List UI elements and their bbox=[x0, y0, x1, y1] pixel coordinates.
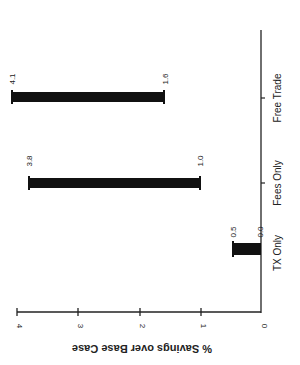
label-free-trade-low: 1.6 bbox=[161, 73, 170, 85]
tick-label-1: 1 bbox=[199, 324, 208, 329]
value-axis-title: % Savings over Base Case bbox=[72, 343, 212, 355]
bar-tx-only bbox=[233, 243, 261, 255]
category-label-free-trade: Free Trade bbox=[272, 73, 283, 122]
bar-fees-only bbox=[29, 178, 200, 188]
tick-label-2: 2 bbox=[138, 324, 147, 329]
range-bars bbox=[12, 90, 261, 257]
label-fees-only-high: 3.8 bbox=[25, 155, 34, 167]
label-tx-only-high: 0.5 bbox=[229, 226, 238, 238]
label-tx-only-low: 0.0 bbox=[256, 226, 265, 238]
savings-range-chart: 4 3 2 1 0 % Savings over Base Case Free … bbox=[0, 0, 300, 365]
category-label-fees-only: Fees Only bbox=[272, 160, 283, 206]
category-labels: Free Trade Fees Only TX Only bbox=[272, 73, 283, 271]
label-free-trade-high: 4.1 bbox=[8, 73, 17, 85]
tick-label-3: 3 bbox=[76, 324, 85, 329]
label-fees-only-low: 1.0 bbox=[196, 155, 205, 167]
category-label-tx-only: TX Only bbox=[272, 235, 283, 271]
value-tick-labels: 4 3 2 1 0 bbox=[15, 324, 269, 329]
bar-free-trade bbox=[12, 92, 164, 102]
tick-label-0: 0 bbox=[260, 324, 269, 329]
tick-label-4: 4 bbox=[15, 324, 24, 329]
